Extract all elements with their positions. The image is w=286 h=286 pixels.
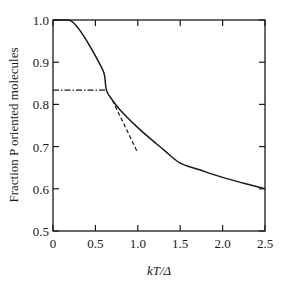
x-axis-title: kT/Δ [147, 263, 172, 278]
y-tick-label: 1.0 [33, 13, 49, 28]
y-tick-label: 0.9 [33, 55, 49, 70]
y-tick-label: 0.6 [33, 182, 50, 197]
x-tick-label: 2.0 [214, 236, 230, 251]
y-tick-label: 0.8 [33, 97, 49, 112]
y-tick-labels: 0.50.60.70.80.91.0 [33, 13, 50, 239]
x-tick-label: 1.5 [172, 236, 188, 251]
x-tick-labels: 00.51.01.52.02.5 [50, 236, 273, 251]
plot-frame [53, 20, 265, 231]
y-axis-title: Fraction P oriented molecules [6, 47, 21, 202]
y-tick-label: 0.5 [33, 224, 49, 239]
y-tick-label: 0.7 [33, 140, 50, 155]
x-tick-label: 2.5 [257, 236, 273, 251]
x-tick-label: 1.0 [130, 236, 146, 251]
chart: 00.51.01.52.02.5 0.50.60.70.80.91.0 kT/Δ… [0, 0, 286, 286]
plot-lines [53, 20, 265, 189]
x-tick-label: 0.5 [87, 236, 103, 251]
x-tick-label: 0 [50, 236, 57, 251]
series-p-kt- [53, 20, 265, 189]
axis-ticks [53, 20, 265, 231]
series-tangent [112, 100, 137, 153]
